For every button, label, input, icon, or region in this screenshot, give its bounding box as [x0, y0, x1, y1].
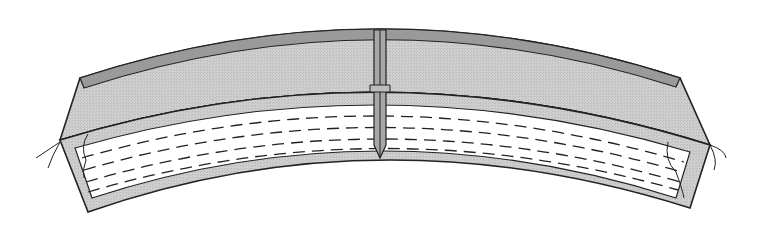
curved-trough-illustration [0, 0, 758, 231]
illustration-canvas [0, 0, 758, 231]
left-wire-1 [36, 142, 60, 158]
right-wire-2 [710, 145, 715, 170]
right-wire-1 [710, 145, 726, 158]
